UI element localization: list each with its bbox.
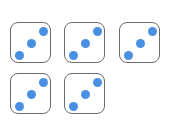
- pip-dot: [81, 90, 90, 99]
- pip-dot: [93, 27, 102, 36]
- pip-dot: [69, 102, 78, 111]
- die-3: [119, 22, 160, 63]
- pip-dot: [27, 90, 36, 99]
- pip-dot: [27, 39, 36, 48]
- die-5: [64, 73, 105, 114]
- pip-dot: [81, 39, 90, 48]
- pip-dot: [15, 51, 24, 60]
- pip-dot: [39, 27, 48, 36]
- pip-dot: [124, 51, 133, 60]
- pip-dot: [136, 39, 145, 48]
- pip-dot: [93, 78, 102, 87]
- pip-dot: [39, 78, 48, 87]
- pip-dot: [69, 51, 78, 60]
- die-4: [10, 73, 51, 114]
- pip-dot: [148, 27, 157, 36]
- pip-dot: [15, 102, 24, 111]
- die-2: [64, 22, 105, 63]
- die-1: [10, 22, 51, 63]
